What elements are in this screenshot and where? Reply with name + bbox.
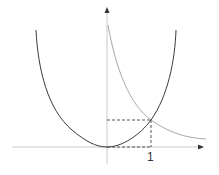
x-axis-arrow-icon <box>198 145 204 150</box>
parabola-curve <box>36 30 176 147</box>
x-tick-label-one: 1 <box>147 151 154 163</box>
decreasing-curve <box>108 25 206 139</box>
y-axis-arrow-icon <box>105 7 110 13</box>
function-diagram <box>0 0 219 175</box>
